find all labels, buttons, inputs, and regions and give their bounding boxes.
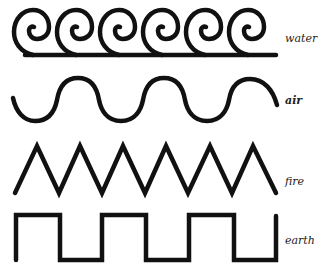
water-label: water [285,33,317,44]
earth-label: earth [285,235,315,246]
fire-zigzag [15,146,276,193]
water-spiral-wave [14,10,276,55]
earth-square-wave [16,215,276,260]
air-sine-wave [13,78,277,121]
air-label: air [285,95,302,106]
diagram-canvas [0,0,321,273]
elements-diagram: water air fire earth [0,0,321,273]
fire-label: fire [285,176,304,187]
